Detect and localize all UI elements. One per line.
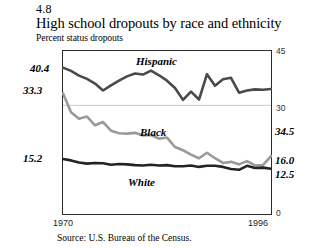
endpoint-label-black-start: 33.3	[23, 84, 42, 96]
line-chart-svg	[62, 50, 272, 215]
endpoint-label-white-start: 15.2	[23, 152, 42, 164]
source-note: Source: U.S. Bureau of the Census.	[57, 232, 192, 244]
y-axis-tick-0: 0	[276, 208, 281, 218]
chart-plot-area	[62, 50, 272, 215]
figure-title: High school dropouts by race and ethnici…	[36, 14, 281, 32]
endpoint-label-hispanic-end: 34.5	[275, 125, 294, 137]
series-label-white: White	[128, 176, 155, 188]
endpoint-label-hispanic-start: 40.4	[30, 62, 49, 74]
series-line-black	[63, 93, 271, 165]
figure-subtitle: Percent status dropouts	[36, 32, 123, 44]
y-axis-tick-45: 45	[276, 46, 285, 56]
endpoint-label-white-end: 12.5	[275, 168, 294, 180]
y-axis-tick-30: 30	[276, 103, 285, 113]
x-axis-label-start: 1970	[53, 218, 73, 229]
x-axis-label-end: 1996	[248, 218, 268, 229]
series-label-hispanic: Hispanic	[136, 55, 177, 67]
series-line-hispanic	[63, 68, 271, 100]
endpoint-label-black-end: 16.0	[275, 154, 294, 166]
series-label-black: Black	[140, 126, 166, 138]
